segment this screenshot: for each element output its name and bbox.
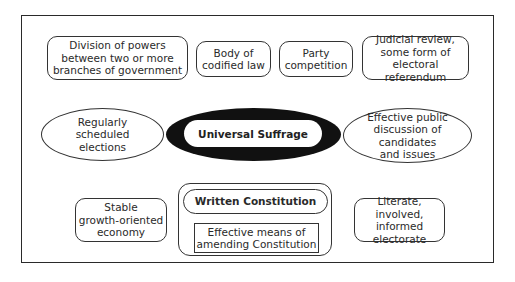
node-party-competition: Party competition: [279, 41, 353, 77]
node-public-discussion: Effective public discussion of candidate…: [343, 108, 472, 163]
node-judicial-review: Judicial review, some form of electoral …: [362, 36, 469, 80]
node-codified-law: Body of codified law: [196, 41, 271, 77]
node-regular-elections: Regularly scheduled elections: [41, 108, 164, 161]
node-universal-suffrage: Universal Suffrage: [184, 120, 322, 147]
node-literate-electorate: Literate, involved, informed electorate: [354, 198, 445, 242]
node-written-constitution: Written Constitution: [183, 189, 328, 214]
node-amending-constitution: Effective means of amending Constitution: [194, 223, 319, 253]
node-division-of-powers: Division of powers between two or more b…: [47, 36, 188, 80]
node-stable-economy: Stable growth-oriented economy: [75, 198, 167, 242]
